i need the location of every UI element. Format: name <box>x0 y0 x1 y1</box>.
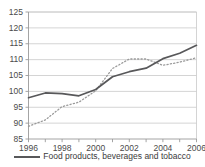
legend-line-marker <box>14 156 40 158</box>
y-axis-tick-label: 95 <box>1 103 23 112</box>
chart-plot-area <box>0 0 205 167</box>
y-axis-tick-label: 105 <box>1 71 23 80</box>
gridlines <box>29 12 197 123</box>
data-series-solid <box>29 45 197 97</box>
y-axis-tick-label: 85 <box>1 135 23 144</box>
y-axis-tick-label: 120 <box>1 24 23 33</box>
chart-container: 125120115110105100959085 199619982000200… <box>0 0 205 167</box>
legend-label: Food products, beverages and tobacco <box>43 152 190 161</box>
x-axis-ticks <box>29 139 197 142</box>
y-axis-tick-label: 110 <box>1 55 23 64</box>
data-series-dotted <box>29 58 197 127</box>
y-axis-tick-label: 100 <box>1 87 23 96</box>
y-axis-tick-label: 125 <box>1 8 23 17</box>
y-axis-tick-label: 115 <box>1 39 23 48</box>
chart-legend: Food products, beverages and tobacco <box>0 152 205 161</box>
y-axis-tick-label: 90 <box>1 119 23 128</box>
